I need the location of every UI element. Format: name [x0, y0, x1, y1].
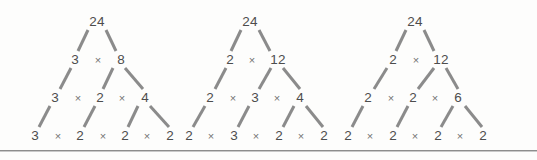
- edge-t1-n8-left: [103, 68, 113, 89]
- operator-t3-r4-1: ×: [367, 131, 373, 142]
- factor-tree-figure: 24 3 × 8 3 × 2 × 4 3 × 2 × 2 × 2 24 2 × …: [0, 0, 537, 160]
- operator-t1-r4-2: ×: [100, 131, 106, 142]
- node-t3-r4-c2: 2: [389, 129, 397, 143]
- node-t2-r3-c3: 4: [296, 91, 304, 105]
- edge-t3-n12-right: [446, 68, 458, 89]
- operator-t1-r3-1: ×: [75, 93, 81, 104]
- node-t1-r3-c2: 2: [96, 91, 104, 105]
- node-t1-r4-c2: 2: [76, 129, 84, 143]
- operator-t3-r4-3: ×: [457, 131, 463, 142]
- edge-t3-n2-left: [374, 68, 387, 89]
- node-t3-r2-c1: 2: [389, 53, 397, 67]
- node-t3-r4-c4: 2: [479, 129, 487, 143]
- node-t1-r3-c1: 3: [51, 91, 59, 105]
- node-t3-r1-c1: 24: [407, 15, 422, 29]
- node-t1-r3-c3: 4: [141, 91, 149, 105]
- operator-t1-r4-3: ×: [144, 131, 150, 142]
- edge-t2-b3: [283, 106, 294, 127]
- edge-t3-root-left: [396, 30, 406, 51]
- edge-t3-b2: [397, 106, 408, 127]
- edge-t1-b1: [39, 106, 50, 127]
- operator-t1-r4-1: ×: [55, 131, 61, 142]
- operator-t2-r3-2: ×: [274, 93, 280, 104]
- edge-t2-root-right: [259, 30, 270, 51]
- node-t1-r2-c2: 8: [117, 53, 125, 67]
- operator-t2-r2-1: ×: [249, 55, 255, 66]
- edge-t2-n12-right: [283, 68, 300, 89]
- node-t1-r2-c1: 3: [71, 53, 79, 67]
- node-t1-r4-c3: 2: [121, 129, 129, 143]
- edge-t3-b3: [441, 106, 453, 127]
- node-t2-r3-c2: 3: [251, 91, 259, 105]
- operator-t2-r4-2: ×: [253, 131, 259, 142]
- operator-t1-r2-1: ×: [95, 55, 101, 66]
- node-t2-r2-c1: 2: [226, 53, 234, 67]
- node-t1-r4-c1: 3: [31, 129, 39, 143]
- edge-t1-n8-right: [125, 68, 143, 89]
- operator-t2-r3-1: ×: [230, 93, 236, 104]
- operator-t3-r2-1: ×: [413, 55, 419, 66]
- node-t1-r4-c4: 2: [166, 129, 174, 143]
- edge-t1-b2: [84, 106, 95, 127]
- node-t1-r1-c1: 24: [89, 15, 104, 29]
- operator-t1-r3-2: ×: [119, 93, 125, 104]
- edge-t3-root-right: [424, 30, 434, 51]
- node-t3-r3-c1: 2: [364, 91, 372, 105]
- bottom-divider-shadow: [0, 151, 537, 152]
- edge-t2-root-left: [231, 30, 241, 51]
- node-t3-r3-c2: 2: [409, 91, 417, 105]
- node-t3-r4-c3: 2: [434, 129, 442, 143]
- operator-t2-r4-3: ×: [298, 131, 304, 142]
- edge-t2-n2-left: [215, 68, 226, 89]
- edge-t2-b4: [306, 106, 323, 127]
- edge-t2-b1: [193, 106, 205, 127]
- edge-t3-b1: [352, 106, 363, 127]
- node-t2-r2-c2: 12: [270, 53, 285, 67]
- operator-t3-r3-1: ×: [388, 93, 394, 104]
- edge-t2-b2: [238, 106, 249, 127]
- node-t2-r4-c2: 3: [230, 129, 238, 143]
- operator-t2-r4-1: ×: [208, 131, 214, 142]
- node-t3-r3-c3: 6: [454, 91, 462, 105]
- edge-t1-root-left: [78, 30, 88, 51]
- node-t2-r4-c3: 2: [275, 129, 283, 143]
- edge-t1-root-right: [106, 30, 116, 51]
- edge-t3-b4: [465, 106, 482, 127]
- node-t2-r3-c1: 2: [206, 91, 214, 105]
- edge-t1-n3-left: [60, 68, 71, 89]
- operator-t3-r3-2: ×: [432, 93, 438, 104]
- edge-t3-n12-left: [418, 68, 434, 89]
- node-t3-r2-c2: 12: [433, 53, 448, 67]
- node-t3-r4-c1: 2: [344, 129, 352, 143]
- edge-t1-b3: [128, 106, 138, 127]
- node-t2-r4-c4: 2: [320, 129, 328, 143]
- edge-t1-b4: [150, 106, 169, 127]
- edge-t2-n12-left: [259, 68, 271, 89]
- node-t2-r4-c1: 2: [185, 129, 193, 143]
- node-t2-r1-c1: 24: [242, 15, 257, 29]
- operator-t3-r4-2: ×: [412, 131, 418, 142]
